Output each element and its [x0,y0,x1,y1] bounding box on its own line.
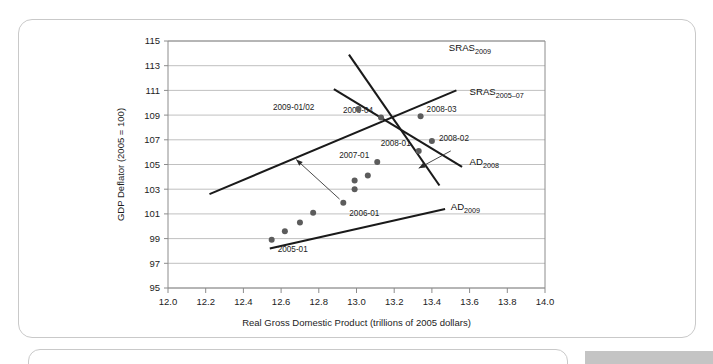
curve-label-AD-2009: AD2009 [451,201,480,215]
data-point-label-2008-01: 2008-01 [381,139,411,148]
x-tick-label-13.8: 13.8 [498,296,517,307]
data-point-7 [365,173,371,179]
x-tick-label-12.2: 12.2 [196,296,215,307]
y-axis-title: GDP Deflator (2005 = 100) [115,108,126,221]
chart-container: 95979910110310510710911111311512.012.212… [0,0,713,364]
x-tick-label-12.0: 12.0 [159,296,178,307]
y-tick-label-107: 107 [144,134,160,145]
data-point-2008-03 [418,113,424,119]
data-point-2008-01 [416,148,422,154]
y-tick-label-113: 113 [145,60,160,71]
y-tick-label-111: 111 [146,85,160,96]
y-tick-label-109: 109 [144,110,160,121]
y-tick-label-103: 103 [144,184,160,195]
data-point-2009-01-02 [355,106,361,112]
x-tick-label-13.2: 13.2 [385,296,404,307]
data-point-label-2007-01: 2007-01 [339,151,369,160]
y-tick-label-115: 115 [145,35,160,46]
y-tick-label-105: 105 [144,159,160,170]
data-point-label-2008-02: 2008-02 [439,134,469,143]
data-point-label-2009-01-02: 2009-01/02 [273,103,315,112]
data-point-6 [352,178,358,184]
data-point-2007-01 [374,159,380,165]
page-root: 95979910110310510710911111311512.012.212… [0,0,713,364]
x-tick-label-12.8: 12.8 [310,296,329,307]
curve-SRAS-2009 [349,55,439,186]
sras-shift-arrow [296,160,339,200]
data-point-5 [352,186,358,192]
x-tick-label-13.6: 13.6 [460,296,479,307]
data-point-label-2006-01: 2006-01 [349,209,379,218]
data-point-2005-01 [269,237,275,243]
data-point-1 [282,228,288,234]
data-point-2 [297,220,303,226]
data-point-2008-04 [378,115,384,121]
ad-as-scatter-chart: 95979910110310510710911111311512.012.212… [0,0,713,364]
curve-label-SRAS-2009: SRAS2009 [449,42,491,56]
y-tick-label-101: 101 [144,208,160,219]
data-point-label-2008-03: 2008-03 [427,105,457,114]
x-tick-label-12.6: 12.6 [272,296,291,307]
x-tick-label-13.4: 13.4 [423,296,442,307]
y-tick-label-99: 99 [149,233,160,244]
data-point-2008-02 [429,138,435,144]
curve-label-AD-2008: AD2008 [470,156,499,170]
data-point-2006-01 [340,200,346,206]
data-point-3 [310,210,316,216]
x-tick-label-14.0: 14.0 [536,296,555,307]
x-axis-title: Real Gross Domestic Product (trillions o… [242,317,471,328]
x-tick-label-13.0: 13.0 [347,296,366,307]
curve-label-SRAS-2005-07: SRAS2005–07 [470,86,524,100]
x-tick-label-12.4: 12.4 [234,296,253,307]
y-tick-label-97: 97 [149,258,160,269]
y-tick-label-95: 95 [149,282,160,293]
data-point-label-2005-01: 2005-01 [278,245,308,254]
